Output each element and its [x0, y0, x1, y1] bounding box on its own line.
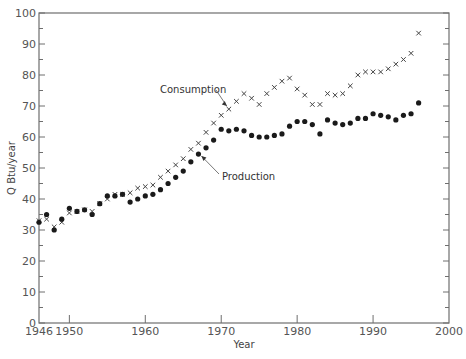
consumption-point [348, 84, 353, 89]
consumption-point [333, 93, 338, 98]
production-point [158, 187, 163, 192]
consumption-point [264, 91, 269, 96]
y-tick-label: 70 [22, 100, 36, 113]
consumption-point [340, 91, 345, 96]
production-point [295, 119, 300, 124]
consumption-point [242, 91, 247, 96]
consumption-point [158, 175, 163, 180]
production-point [257, 134, 262, 139]
consumption-point [409, 51, 414, 56]
production-point [287, 124, 292, 129]
consumption-point [287, 76, 292, 81]
production-point [310, 122, 315, 127]
consumption-label: Consumption [160, 84, 226, 95]
consumption-point [310, 102, 315, 107]
production-point [90, 212, 95, 217]
production-point [36, 220, 41, 225]
consumption-point [280, 79, 285, 84]
production-point [416, 100, 421, 105]
production-point [150, 192, 155, 197]
production-point [234, 127, 239, 132]
y-tick-label: 90 [22, 38, 36, 51]
consumption-point [394, 62, 399, 67]
production-point [317, 131, 322, 136]
consumption-point [371, 70, 376, 75]
production-point [408, 111, 413, 116]
consumption-point [325, 91, 330, 96]
production-point [348, 120, 353, 125]
x-tick-label: 2000 [435, 325, 463, 338]
x-tick-label: 1980 [283, 325, 311, 338]
production-point [128, 200, 133, 205]
production-point [325, 117, 330, 122]
y-axis-title: Q Btu/year [6, 140, 17, 195]
production-point [67, 206, 72, 211]
production-point [386, 114, 391, 119]
production-point [112, 193, 117, 198]
production-point [82, 207, 87, 212]
consumption-point [363, 70, 368, 75]
y-tick-label: 50 [22, 162, 36, 175]
annotations: ConsumptionProduction [160, 84, 275, 182]
y-tick-label: 30 [22, 224, 36, 237]
production-point [401, 113, 406, 118]
consumption-point [234, 99, 239, 104]
consumption-point [166, 169, 171, 174]
x-axis: 1946195019601970198019902000 [25, 315, 463, 338]
production-point [279, 131, 284, 136]
consumption-point [272, 85, 277, 90]
production-point [378, 113, 383, 118]
consumption-point [44, 217, 49, 222]
production-point [173, 175, 178, 180]
production-point [355, 116, 360, 121]
production-point [188, 159, 193, 164]
consumption-point [151, 183, 156, 188]
production-point [105, 193, 110, 198]
x-axis-title: Year [232, 339, 255, 350]
production-point [393, 117, 398, 122]
consumption-point [227, 107, 232, 112]
consumption-point [386, 67, 391, 72]
production-point [241, 128, 246, 133]
production-point [272, 133, 277, 138]
y-tick-label: 60 [22, 131, 36, 144]
x-tick-label: 1946 [25, 325, 53, 338]
production-point [340, 122, 345, 127]
production-point [302, 119, 307, 124]
production-point [74, 209, 79, 214]
consumption-point [67, 211, 72, 216]
production-point [97, 201, 102, 206]
production-point [370, 111, 375, 116]
production-point [120, 192, 125, 197]
plot-frame [39, 13, 449, 323]
consumption-point [128, 191, 133, 196]
consumption-point [181, 156, 186, 161]
y-axis: 0102030405060708090100 [15, 7, 449, 330]
production-point [44, 212, 49, 217]
production-point [143, 193, 148, 198]
production-point [264, 134, 269, 139]
y-tick-label: 20 [22, 255, 36, 268]
production-point [226, 128, 231, 133]
x-tick-label: 1950 [55, 325, 83, 338]
y-tick-label: 40 [22, 193, 36, 206]
consumption-point [378, 70, 383, 75]
x-tick-label: 1970 [207, 325, 235, 338]
production-point [196, 151, 201, 156]
production-point [181, 169, 186, 174]
consumption-point [302, 93, 307, 98]
consumption-point [318, 102, 323, 107]
consumption-point [356, 73, 361, 78]
consumption-point [295, 87, 300, 92]
chart-canvas: 0102030405060708090100 19461950196019701… [0, 0, 466, 359]
production-point [135, 196, 140, 201]
consumption-point [143, 184, 148, 189]
production-point [59, 217, 64, 222]
production-point [165, 181, 170, 186]
arrowhead-icon [222, 101, 227, 106]
consumption-point [173, 163, 178, 168]
production-point [203, 145, 208, 150]
y-tick-label: 100 [15, 7, 36, 20]
x-tick-label: 1960 [131, 325, 159, 338]
production-point [249, 133, 254, 138]
